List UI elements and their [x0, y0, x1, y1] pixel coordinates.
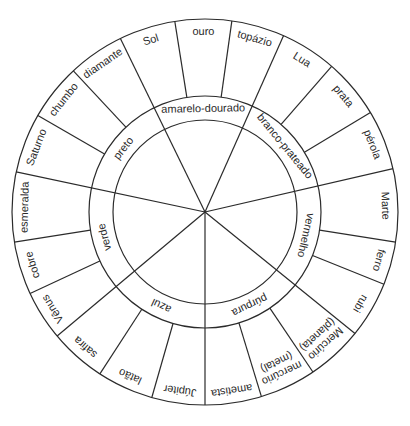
outer-segment-label-text: Lua	[291, 49, 314, 69]
inner-sector-label: preto	[111, 134, 136, 161]
segment-divider	[221, 21, 232, 97]
segment-divider	[38, 116, 105, 155]
wheel-lines	[12, 19, 398, 405]
inner-sector-label: azul	[149, 297, 172, 316]
outer-segment-label: chumbo	[46, 80, 80, 118]
outer-segment-label-text: cobre	[22, 250, 42, 280]
outer-segment-label: Sol	[141, 31, 160, 47]
inner-sector-label-text: amarelo-dourado	[161, 101, 245, 114]
sector-divider	[205, 212, 355, 333]
inner-sector-label: púrpura	[229, 292, 269, 320]
outer-segment-label-text: rubi	[351, 293, 371, 315]
outer-segment-label-text: Marte	[379, 191, 392, 220]
inner-sector-label-text: verde	[95, 222, 113, 252]
sector-divider	[16, 172, 205, 212]
outer-segment-label-text: esmeralda	[17, 181, 30, 234]
outer-segment-label: Marte	[379, 191, 392, 220]
outer-segment-label-text: topázio	[236, 27, 273, 48]
outer-segment-label-text: diamante	[80, 45, 124, 81]
segment-divider	[100, 309, 142, 374]
outer-segment-label: Lua	[291, 49, 314, 69]
outer-segment-label-text: prata	[331, 82, 357, 110]
outer-segment-label: topázio	[236, 27, 273, 48]
outer-segment-label: ferro	[371, 248, 389, 273]
outer-segment-label: Mercúrio(planeta)	[298, 316, 346, 363]
outer-segment-label: Saturno	[24, 127, 49, 167]
outer-segment-label: prata	[331, 82, 357, 110]
outer-segment-label: ouro	[192, 25, 214, 37]
outer-segment-label: Vênus	[39, 292, 66, 325]
segment-divider	[281, 66, 332, 124]
segment-divider	[304, 113, 370, 153]
correspondence-wheel: pretoamarelo-douradobranco-prateadoverme…	[0, 0, 410, 426]
outer-segment-label-text: ouro	[192, 25, 214, 37]
outer-segment-label-text: ferro	[371, 248, 389, 273]
outer-segment-label: Júpiter	[162, 383, 197, 400]
segment-divider	[175, 21, 187, 97]
outer-segment-label: safira	[70, 334, 99, 361]
outer-segment-label-text: ametista	[209, 382, 253, 400]
inner-sector-label-text: azul	[149, 297, 172, 316]
outer-segment-label: cobre	[22, 250, 42, 280]
sector-divider	[120, 39, 205, 212]
inner-sector-label-text: preto	[111, 134, 136, 161]
segment-divider	[320, 230, 396, 242]
outer-segment-label-text: Vênus	[39, 292, 66, 325]
segment-divider	[73, 71, 126, 127]
outer-segment-label-text: Júpiter	[162, 383, 197, 400]
sector-divider	[57, 212, 205, 336]
outer-segment-label-text: Saturno	[24, 127, 49, 167]
inner-sector-label-text: branco-prateado	[255, 111, 316, 181]
inner-sector-label: branco-prateado	[255, 111, 316, 181]
outer-segment-label-text: Sol	[141, 31, 160, 47]
outer-segment-label: latão	[117, 366, 144, 387]
inner-sector-label-text: púrpura	[229, 292, 269, 320]
outer-segment-label: esmeralda	[17, 181, 30, 234]
outer-segment-label: ametista	[209, 382, 253, 400]
sector-divider	[205, 169, 393, 212]
outer-segment-label: diamante	[80, 45, 124, 81]
inner-sector-label: amarelo-dourado	[161, 101, 245, 114]
inner-sector-label: verde	[95, 222, 113, 252]
outer-segment-label-text: safira	[70, 334, 99, 361]
outer-segment-label-text: latão	[117, 366, 144, 387]
outer-segment-label-text: chumbo	[46, 80, 80, 118]
outer-segment-label: rubi	[351, 293, 371, 315]
